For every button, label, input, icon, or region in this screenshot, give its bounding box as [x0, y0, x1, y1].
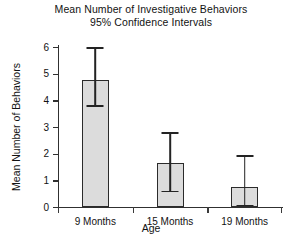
x-axis-label: Age: [0, 222, 302, 234]
error-bar-19-months: [231, 155, 258, 206]
y-axis-label: Mean Number of Behaviors: [10, 63, 22, 191]
chart-figure: Mean Number of Investigative Behaviors 9…: [0, 0, 302, 247]
x-separator-0: [58, 207, 59, 213]
error-bar-cap-lower: [162, 191, 179, 193]
error-bar-line: [95, 47, 97, 107]
error-bar-15-months: [157, 132, 184, 192]
chart-title-block: Mean Number of Investigative Behaviors 9…: [0, 3, 302, 29]
y-tick-label-5: 5: [43, 69, 49, 79]
y-tick-label-6: 6: [43, 43, 49, 53]
plot-area: Mean Number of Behaviors 6 5 4 3 2 1 0: [58, 47, 282, 207]
y-tick-label-0: 0: [43, 203, 49, 213]
error-bar-line: [244, 155, 246, 206]
x-separator-3: [281, 207, 282, 213]
error-bar-line: [169, 132, 171, 192]
y-tick-4: 4: [53, 100, 58, 101]
y-tick-1: 1: [53, 180, 58, 181]
y-tick-label-4: 4: [43, 96, 49, 106]
x-separator-1: [133, 207, 134, 213]
error-bar-cap-upper: [236, 155, 253, 157]
y-tick-label-2: 2: [43, 149, 49, 159]
error-bar-9-months: [82, 47, 109, 107]
y-tick-label-1: 1: [43, 176, 49, 186]
y-tick-2: 2: [53, 154, 58, 155]
y-tick-6: 6: [53, 47, 58, 48]
y-tick-3: 3: [53, 127, 58, 128]
chart-title: Mean Number of Investigative Behaviors: [0, 3, 302, 16]
chart-subtitle: 95% Confidence Intervals: [0, 16, 302, 29]
y-tick-label-3: 3: [43, 123, 49, 133]
error-bar-cap-lower: [87, 105, 104, 107]
x-separator-2: [207, 207, 208, 213]
error-bar-cap-upper: [87, 47, 104, 49]
error-bar-cap-upper: [162, 132, 179, 134]
y-tick-5: 5: [53, 74, 58, 75]
